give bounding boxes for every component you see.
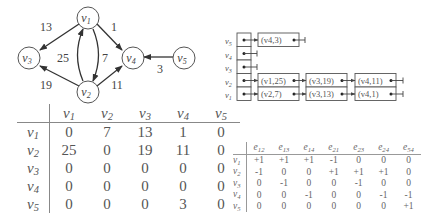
directed-graph: v1 v2 v3 v4 v5 13 1 7 25 19 11 3 <box>0 0 220 104</box>
matrix-row: v4 0 0 -1 0 0 -1 -1 <box>233 189 421 201</box>
edge-v1-v4 <box>97 24 122 50</box>
col-header: e23 <box>346 142 371 154</box>
list-node: (v1,25) <box>261 76 286 86</box>
weight-v2-v4: 11 <box>111 78 123 92</box>
matrix-row: v3 0 0 0 0 0 <box>17 159 240 177</box>
matrix-row: v5 0 0 0 3 0 <box>17 195 240 213</box>
svg-text:v4: v4 <box>225 50 232 61</box>
col-header: v3 <box>126 104 164 123</box>
incidence-matrix: e12 e13 e14 e21 e23 e24 e54 v1 +1 +1 +1 … <box>233 142 421 212</box>
weight-v1-v2: 7 <box>102 51 108 65</box>
weight-v1-v3: 13 <box>40 20 52 34</box>
list-node: (v4,11) <box>358 76 383 86</box>
matrix-row: v2 25 0 19 11 0 <box>17 141 240 159</box>
edge-v2-v1 <box>78 29 84 81</box>
col-header: v2 <box>88 104 126 123</box>
svg-text:v2: v2 <box>225 77 232 88</box>
col-header: e24 <box>371 142 396 154</box>
weight-v2-v1: 25 <box>57 51 69 65</box>
list-node: (v4,1) <box>358 89 379 99</box>
matrix-row: v2 -1 0 0 +1 +1 +1 0 <box>233 166 421 178</box>
matrix-row: v4 0 0 0 0 0 <box>17 177 240 195</box>
svg-text:v1: v1 <box>225 90 232 101</box>
svg-text:v3: v3 <box>225 63 232 74</box>
col-header: e13 <box>272 142 297 154</box>
weight-v1-v4: 1 <box>111 20 117 34</box>
matrix-row: v3 0 -1 0 0 -1 0 0 <box>233 178 421 190</box>
col-header: v4 <box>164 104 202 123</box>
list-node: (v3,13) <box>309 89 334 99</box>
edge-v1-v2 <box>93 29 99 81</box>
col-header: e14 <box>296 142 321 154</box>
matrix-row: v1 +1 +1 +1 -1 0 0 0 <box>233 154 421 166</box>
list-node: (v3,19) <box>309 76 334 86</box>
weight-v2-v3: 19 <box>40 78 52 92</box>
weight-v5-v4: 3 <box>157 62 163 76</box>
adjacency-list: v5 v4 v3 v2 v1 (v4,3) (v1,25) ( <box>225 28 421 108</box>
svg-text:v5: v5 <box>225 36 232 47</box>
adjacency-matrix: v1 v2 v3 v4 v5 v1 0 7 13 1 0 v2 25 0 19 … <box>17 104 240 213</box>
list-node: (v2,7) <box>261 89 282 99</box>
col-header: e54 <box>396 142 421 154</box>
matrix-row: v1 0 7 13 1 0 <box>17 123 240 142</box>
col-header: v1 <box>50 104 89 123</box>
list-node: (v4,3) <box>261 35 282 45</box>
matrix-row: v5 0 0 0 0 0 0 +1 <box>233 201 421 213</box>
col-header: e12 <box>246 142 271 154</box>
col-header: e21 <box>321 142 346 154</box>
